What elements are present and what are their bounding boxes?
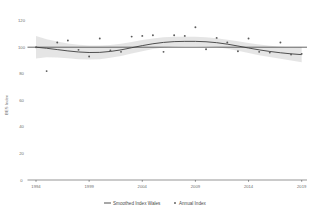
data-point <box>99 38 101 40</box>
x-tick-label: 1994 <box>31 184 41 189</box>
data-point <box>184 35 186 37</box>
data-point <box>269 52 271 54</box>
x-tick-label: 2019 <box>297 184 307 189</box>
y-axis-tick-labels: 020406080100120 <box>18 18 26 182</box>
y-tick-label: 20 <box>19 151 24 156</box>
data-point <box>120 51 122 53</box>
x-tick-label: 2009 <box>191 184 201 189</box>
legend-label: Annual Index <box>179 201 207 206</box>
data-point <box>194 26 196 28</box>
legend-label: Smoothed Index Wales <box>113 201 161 206</box>
y-axis-title: BES Index <box>4 94 9 115</box>
data-point <box>35 46 37 48</box>
data-point <box>205 48 207 50</box>
data-point <box>258 51 260 53</box>
data-point <box>290 54 292 56</box>
data-point <box>163 51 165 53</box>
data-point <box>78 49 80 51</box>
data-point <box>173 34 175 36</box>
data-point <box>131 36 133 38</box>
x-axis <box>28 180 308 182</box>
data-point <box>279 42 281 44</box>
data-point <box>152 34 154 36</box>
data-point <box>216 37 218 39</box>
data-point <box>141 35 143 37</box>
data-point <box>301 53 303 55</box>
x-tick-label: 2014 <box>244 184 254 189</box>
y-tick-label: 0 <box>20 178 23 183</box>
y-tick-label: 80 <box>19 71 24 76</box>
data-point <box>46 70 48 72</box>
bes-index-chart: 199419992004200920142019 020406080100120… <box>0 0 316 215</box>
data-point <box>88 56 90 58</box>
y-tick-label: 120 <box>18 18 26 23</box>
data-point <box>109 50 111 52</box>
data-point <box>237 50 239 52</box>
data-point <box>67 40 69 42</box>
data-point <box>56 42 58 44</box>
x-tick-label: 2004 <box>138 184 148 189</box>
confidence-band <box>36 36 302 62</box>
data-point <box>226 42 228 44</box>
y-tick-label: 100 <box>18 45 26 50</box>
data-point <box>248 38 250 40</box>
y-tick-label: 60 <box>19 98 24 103</box>
x-tick-label: 1999 <box>84 184 94 189</box>
y-tick-label: 40 <box>19 124 24 129</box>
chart-legend: Smoothed Index WalesAnnual Index <box>104 201 207 206</box>
x-axis-tick-labels: 199419992004200920142019 <box>31 184 307 189</box>
chart-container: 199419992004200920142019 020406080100120… <box>0 0 316 215</box>
legend-point-swatch <box>174 202 176 204</box>
